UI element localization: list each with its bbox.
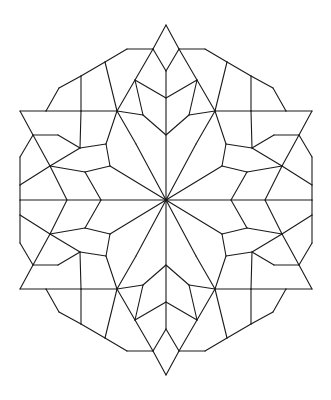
rosette-edge [222, 144, 226, 166]
rosette-edge [85, 228, 110, 234]
rosette-edge [299, 135, 312, 157]
rosette-edge [80, 252, 106, 256]
rosette-edge [189, 111, 215, 115]
rosette-edge [166, 80, 197, 98]
rosette-edge [153, 351, 166, 375]
rosette-edge [231, 200, 247, 228]
rosette-edge [252, 135, 274, 148]
rosette-edge [135, 285, 143, 320]
star-rosette-diagram [0, 0, 331, 400]
rosette-edge [20, 166, 50, 185]
rosette-edge [46, 88, 59, 111]
rosette-edge [265, 166, 282, 200]
rosette-edge [166, 265, 189, 285]
rosette-edge [135, 80, 166, 98]
rosette-edge [189, 285, 215, 289]
rosette-edge [85, 172, 101, 200]
rosette-edge [58, 252, 80, 265]
rosette-edge [299, 243, 312, 265]
rosette-edge [166, 166, 222, 200]
rosette-edge [166, 115, 189, 135]
rosette-edge [273, 88, 286, 111]
rosette-edge [106, 111, 117, 144]
rosette-edge [105, 49, 127, 62]
rosette-edge [273, 289, 286, 312]
rosette-edge [265, 200, 282, 234]
rosette-edge [20, 135, 33, 157]
rosette-edge [215, 256, 226, 289]
rosette-edge [252, 252, 274, 265]
rosette-edge [33, 234, 50, 265]
rosette-edge [58, 135, 80, 148]
rosette-edge [50, 200, 67, 234]
rosette-edge [153, 329, 166, 351]
rosette-edge [231, 172, 247, 200]
rosette-edge [135, 302, 166, 320]
rosette-edge [215, 289, 227, 338]
rosette-edge [143, 115, 166, 135]
rosette-edge [166, 200, 222, 234]
rosette-edge [251, 76, 273, 88]
rosette-edge [166, 351, 179, 375]
rosette-edge [117, 256, 136, 289]
rosette-edge [136, 200, 166, 256]
rosette-edge [215, 111, 226, 144]
rosette-edge [282, 234, 299, 265]
rosette-edge [166, 329, 179, 351]
rosette-edge [20, 265, 33, 289]
rosette-edge [117, 285, 143, 289]
rosette-edge [166, 25, 179, 49]
rosette-edge [50, 166, 67, 200]
rosette-edge [282, 166, 312, 185]
rosette-edge [117, 80, 135, 111]
rosette-edge [85, 166, 110, 172]
rosette-edge [50, 234, 80, 252]
rosette-edge [105, 289, 117, 338]
rosette-edge [197, 80, 215, 111]
rosette-edge [166, 49, 179, 71]
rosette-edge [166, 302, 197, 320]
rosette-edge [135, 80, 143, 115]
rosette-edge [247, 166, 282, 172]
rosette-edge [20, 111, 33, 135]
rosette-edge [59, 312, 81, 324]
rosette-edge [247, 228, 282, 234]
rosette-edge [50, 166, 85, 172]
rosette-edge [166, 200, 196, 256]
rosette-edge [226, 144, 252, 148]
rosette-edge [189, 80, 197, 115]
rosette-edge [252, 148, 282, 166]
rosette-edge [251, 312, 273, 324]
rosette-edge [80, 252, 81, 289]
rosette-edge [106, 144, 110, 166]
rosette-edge [222, 234, 226, 256]
rosette-edge [299, 111, 312, 135]
rosette-edge [252, 234, 282, 252]
rosette-edge [205, 49, 227, 62]
rosette-edge [196, 256, 215, 289]
rosette-edge [106, 256, 117, 289]
rosette-edge [299, 265, 312, 289]
rosette-edge [227, 62, 251, 76]
rosette-edge [85, 200, 101, 228]
rosette-edge [81, 324, 105, 338]
rosette-edge [282, 135, 299, 166]
rosette-edge [196, 111, 215, 144]
rosette-edge [80, 111, 81, 148]
rosette-edge [105, 62, 117, 111]
rosette-edge [59, 76, 81, 88]
rosette-edge [106, 234, 110, 256]
rosette-edge [189, 285, 197, 320]
rosette-edge [226, 252, 252, 256]
rosette-edge [153, 25, 166, 49]
rosette-edge [20, 215, 50, 234]
rosette-edge [222, 166, 247, 172]
rosette-edge [33, 135, 50, 166]
rosette-edge [117, 111, 143, 115]
rosette-edge [117, 289, 135, 320]
rosette-edge [166, 144, 196, 200]
rosette-edge [135, 49, 153, 80]
rosette-edge [227, 324, 251, 338]
rosette-edge [50, 228, 85, 234]
rosette-edge [153, 49, 166, 71]
